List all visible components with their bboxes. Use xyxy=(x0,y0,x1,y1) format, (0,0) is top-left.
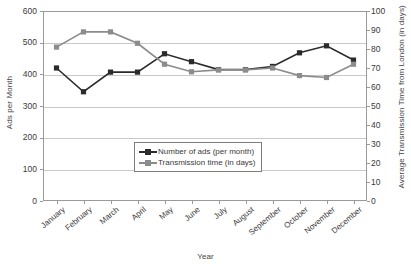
data-point-marker xyxy=(108,70,113,75)
x-axis-tick-mark xyxy=(111,201,112,204)
data-point-marker xyxy=(81,29,86,34)
y-axis-left-tick-mark xyxy=(40,106,43,107)
x-axis-tick-mark xyxy=(192,201,193,204)
legend-label-transmission-time: Transmission time (in days) xyxy=(158,158,256,167)
data-point-marker xyxy=(135,41,140,46)
x-axis-tick-mark xyxy=(300,201,301,204)
y-axis-right-tick: 30 xyxy=(371,139,401,149)
y-axis-right-tick-mark xyxy=(367,163,370,164)
legend-swatch-number-of-ads xyxy=(139,147,157,156)
y-axis-right-tick-mark xyxy=(367,87,370,88)
x-axis-tick-mark xyxy=(246,201,247,204)
y-axis-left-tick: 500 xyxy=(7,37,37,47)
y-axis-left-tick-mark xyxy=(40,43,43,44)
data-point-marker xyxy=(324,43,329,48)
data-point-marker xyxy=(189,59,194,64)
legend-item-transmission-time: Transmission time (in days) xyxy=(139,157,256,168)
y-axis-right-tick-mark xyxy=(367,125,370,126)
data-point-marker xyxy=(81,89,86,94)
y-axis-left-tick: 400 xyxy=(7,69,37,79)
legend-label-number-of-ads: Number of ads (per month) xyxy=(158,147,254,156)
y-axis-left-tick: 300 xyxy=(7,101,37,111)
data-point-marker xyxy=(54,45,59,50)
series-line xyxy=(57,32,354,78)
y-axis-right-tick-mark xyxy=(367,144,370,145)
x-axis-tick-mark xyxy=(57,201,58,204)
series-line xyxy=(57,46,354,92)
y-axis-right-tick: 70 xyxy=(371,63,401,73)
y-axis-right-tick-mark xyxy=(367,11,370,12)
y-axis-right-tick: 20 xyxy=(371,158,401,168)
series-layer xyxy=(43,11,367,201)
x-axis-tick-mark xyxy=(327,201,328,204)
y-axis-left-tick: 600 xyxy=(7,6,37,16)
legend-swatch-transmission-time xyxy=(139,158,157,167)
x-axis-tick-mark xyxy=(219,201,220,204)
data-point-marker xyxy=(135,70,140,75)
y-axis-right-tick: 90 xyxy=(371,25,401,35)
x-axis-tick-mark xyxy=(165,201,166,204)
y-axis-left-tick-mark xyxy=(40,169,43,170)
data-point-marker xyxy=(189,69,194,74)
y-axis-right-tick: 10 xyxy=(371,177,401,187)
data-point-marker xyxy=(162,51,167,56)
x-axis-tick-mark xyxy=(354,201,355,204)
y-axis-right-tick: 40 xyxy=(371,120,401,130)
y-axis-right-tick-mark xyxy=(367,68,370,69)
chart-legend: Number of ads (per month) Transmission t… xyxy=(134,142,262,172)
y-axis-left-tick: 0 xyxy=(7,196,37,206)
data-point-marker xyxy=(270,65,275,70)
x-axis-tick-mark xyxy=(138,201,139,204)
data-point-marker xyxy=(297,50,302,55)
y-axis-right-tick-mark xyxy=(367,49,370,50)
y-axis-left-tick-mark xyxy=(40,138,43,139)
y-axis-right-tick: 80 xyxy=(371,44,401,54)
data-point-marker xyxy=(351,62,356,67)
y-axis-left-tick-mark xyxy=(40,11,43,12)
data-point-marker xyxy=(54,65,59,70)
legend-item-number-of-ads: Number of ads (per month) xyxy=(139,146,256,157)
chart-container: Ads per Month Average Transmission Time … xyxy=(0,0,411,272)
y-axis-left-tick: 100 xyxy=(7,164,37,174)
y-axis-left-tick-mark xyxy=(40,201,43,202)
data-point-marker xyxy=(216,67,221,72)
y-axis-right-tick-mark xyxy=(367,30,370,31)
data-point-marker xyxy=(243,67,248,72)
data-point-marker xyxy=(108,29,113,34)
y-axis-right-tick-mark xyxy=(367,201,370,202)
y-axis-right-tick: 60 xyxy=(371,82,401,92)
y-axis-right-tick-mark xyxy=(367,106,370,107)
data-point-marker xyxy=(297,73,302,78)
data-point-marker xyxy=(324,75,329,80)
x-axis-tick-mark xyxy=(273,201,274,204)
x-axis-tick-mark xyxy=(84,201,85,204)
y-axis-right-tick-mark xyxy=(367,182,370,183)
y-axis-left-tick: 200 xyxy=(7,132,37,142)
y-axis-right-tick: 50 xyxy=(371,101,401,111)
y-axis-right-tick: 100 xyxy=(371,6,401,16)
data-point-marker xyxy=(162,62,167,67)
y-axis-right-tick: 0 xyxy=(371,196,401,206)
y-axis-left-tick-mark xyxy=(40,74,43,75)
